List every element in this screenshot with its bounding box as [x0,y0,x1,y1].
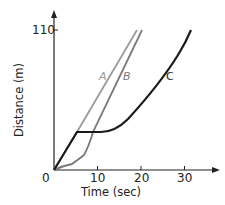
origin-label: 0 [42,171,50,185]
series-c-line [54,30,191,170]
y-axis-title: Distance (m) [12,63,26,137]
series-c-label: C [166,70,174,83]
y-axis-arrow-icon [51,10,57,18]
x-axis-arrow-icon [212,167,220,173]
x-axis-title: Time (sec) [80,185,141,199]
x-tick-label-20: 20 [134,171,149,185]
x-tick-label-30: 30 [177,171,192,185]
series-a-label: A [98,70,107,83]
series-b-label: B [123,70,131,83]
y-tick-label-110: 110 [32,23,55,37]
distance-time-chart: 0 10 20 30 110 Time (sec) Distance (m) A… [0,0,225,205]
x-tick-label-10: 10 [90,171,105,185]
